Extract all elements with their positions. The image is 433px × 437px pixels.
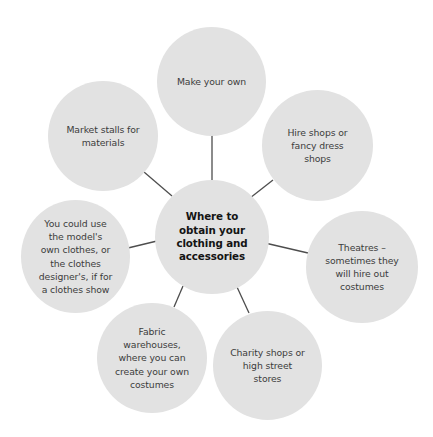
node-label: Make your own: [177, 75, 246, 88]
connector-fabric-warehouses: [174, 286, 183, 307]
node-fabric-warehouses: Fabric warehouses, where you can create …: [97, 303, 207, 413]
center-label: Where to obtain your clothing and access…: [176, 210, 247, 264]
connector-market-stalls: [144, 172, 172, 196]
mind-map-diagram: Make your own Hire shops or fancy dress …: [0, 0, 433, 437]
node-models-clothes: You could use the model's own clothes, o…: [21, 200, 130, 313]
connector-hire-shops: [250, 180, 273, 198]
node-label: Theatres – sometimes they will hire out …: [325, 241, 398, 294]
node-label: Market stalls for materials: [66, 123, 139, 149]
node-make-your-own: Make your own: [157, 27, 266, 136]
node-center: Where to obtain your clothing and access…: [155, 180, 269, 294]
node-hire-shops: Hire shops or fancy dress shops: [262, 90, 373, 201]
node-label: Fabric warehouses, where you can create …: [115, 325, 189, 391]
node-charity-shops: Charity shops or high street stores: [213, 311, 322, 420]
node-label: Charity shops or high street stores: [230, 346, 305, 386]
node-theatres: Theatres – sometimes they will hire out …: [306, 211, 418, 323]
connector-charity-shops: [237, 287, 249, 313]
connector-theatres: [265, 243, 308, 253]
node-market-stalls: Market stalls for materials: [48, 81, 158, 191]
node-label: Hire shops or fancy dress shops: [287, 126, 347, 166]
connector-models-clothes: [128, 241, 157, 248]
node-label: You could use the model's own clothes, o…: [39, 217, 113, 296]
